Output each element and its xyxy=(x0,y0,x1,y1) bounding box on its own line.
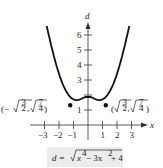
svg-text:(: ( xyxy=(111,104,114,114)
y-tick-label: 6 xyxy=(77,30,82,40)
x-tick-label: −2 xyxy=(53,130,63,140)
x-tick-label: −1 xyxy=(68,130,78,140)
y-tick-label: 1 xyxy=(77,105,82,115)
y-axis-label: d xyxy=(85,11,90,21)
svg-text:,: , xyxy=(128,103,130,113)
x-tick-label: 2 xyxy=(115,130,120,140)
y-tick-label: 4 xyxy=(77,60,82,70)
x-tick-label: 1 xyxy=(101,130,106,140)
x-tick-label: 3 xyxy=(130,130,135,140)
svg-text:): ) xyxy=(44,104,47,114)
svg-text:− 3x: − 3x xyxy=(86,153,103,163)
svg-text:4: 4 xyxy=(139,103,144,113)
right-point-label: ( 3 2 , 7 4 ) xyxy=(111,97,149,114)
x-tick-label: −3 xyxy=(38,130,48,140)
svg-text:(−: (− xyxy=(1,104,9,114)
svg-text:4: 4 xyxy=(39,103,44,113)
x-axis-arrow-icon xyxy=(141,123,148,128)
left-point-label: (− 3 2 , 7 4 ) xyxy=(1,97,47,114)
svg-text:d =: d = xyxy=(52,153,65,163)
min-point-right xyxy=(104,103,108,107)
svg-text:+ 4: + 4 xyxy=(111,153,123,163)
svg-text:2: 2 xyxy=(22,103,27,113)
min-point-left xyxy=(68,103,72,107)
y-tick-label: 5 xyxy=(77,45,82,55)
x-axis-label: x xyxy=(149,120,154,130)
chart: x d −3 −2 −1 1 2 3 1 3 4 5 6 (− 3 2 , xyxy=(0,0,163,168)
y-axis-arrow-icon xyxy=(86,22,91,29)
svg-text:x: x xyxy=(76,153,81,163)
svg-text:,: , xyxy=(27,103,29,113)
svg-text:2: 2 xyxy=(123,103,128,113)
y-tick-label: 3 xyxy=(77,75,82,85)
svg-text:): ) xyxy=(146,104,149,114)
